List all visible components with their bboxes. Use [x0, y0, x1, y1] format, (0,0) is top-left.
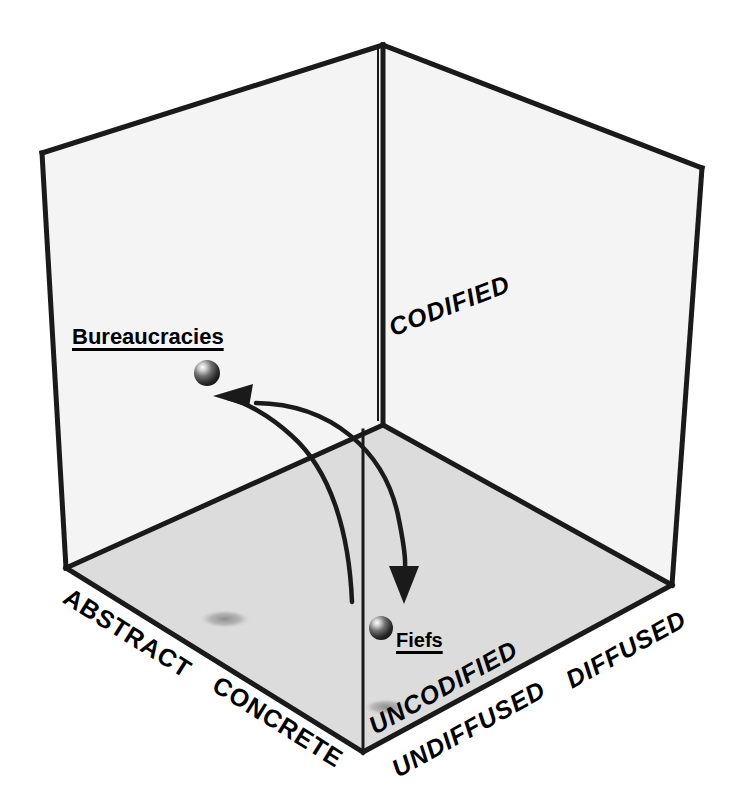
point-label-bureaucracies: Bureaucracies [72, 324, 224, 350]
figure-canvas: Bureaucracies Fiefs ABSTRACT CONCRETE CO… [0, 0, 735, 807]
sphere-fiefs[interactable] [369, 616, 393, 640]
shadow-bureaucracies [200, 610, 250, 628]
sphere-bureaucracies[interactable] [194, 360, 220, 386]
cube-diagram [0, 0, 735, 807]
point-label-fiefs: Fiefs [396, 629, 443, 652]
